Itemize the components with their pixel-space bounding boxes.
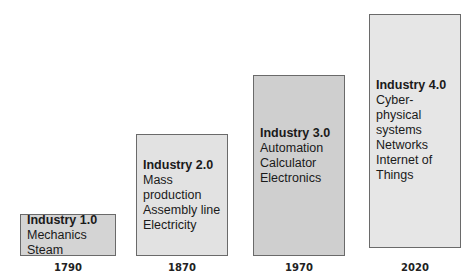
stage-box-industry-1: Industry 1.0 Mechanics Steam <box>20 214 116 256</box>
stage-line: Mechanics <box>27 228 115 243</box>
stage-line: Mass <box>143 173 227 188</box>
stage-line: Electronics <box>260 171 344 186</box>
stage-line: Things <box>376 168 460 183</box>
stage-line: Steam <box>27 243 115 258</box>
stage-box-industry-2: Industry 2.0 Mass production Assembly li… <box>136 134 228 256</box>
year-label: 1970 <box>249 262 349 273</box>
stage-line: physical <box>376 108 460 123</box>
stage-box-industry-3: Industry 3.0 Automation Calculator Elect… <box>253 75 345 256</box>
stage-title: Industry 2.0 <box>143 158 227 173</box>
stage-title: Industry 4.0 <box>376 78 460 93</box>
stage-line: Automation <box>260 141 344 156</box>
stage-line: Electricity <box>143 218 227 233</box>
stage-box-industry-4: Industry 4.0 Cyber- physical systems Net… <box>369 14 461 248</box>
stage-title: Industry 3.0 <box>260 126 344 141</box>
stage-title: Industry 1.0 <box>27 213 115 228</box>
stage-line: Networks <box>376 138 460 153</box>
stage-line: production <box>143 188 227 203</box>
stage-line: Assembly line <box>143 203 227 218</box>
year-label: 2020 <box>365 262 465 273</box>
year-label: 1790 <box>18 262 118 273</box>
stage-line: Calculator <box>260 156 344 171</box>
year-label: 1870 <box>132 262 232 273</box>
stage-line: Internet of <box>376 153 460 168</box>
stage-line: Cyber- <box>376 93 460 108</box>
stage-line: systems <box>376 123 460 138</box>
